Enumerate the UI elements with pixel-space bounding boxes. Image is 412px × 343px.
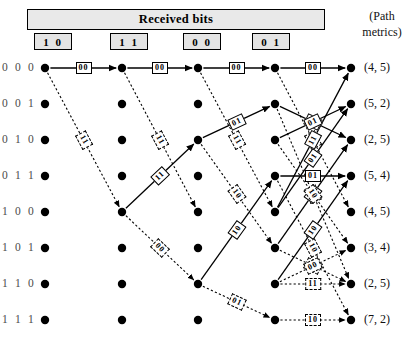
edge-label: 00 <box>305 62 321 74</box>
trellis-node <box>271 208 279 216</box>
trellis-node <box>118 100 126 108</box>
trellis-node <box>194 64 202 72</box>
edge-label: 10 <box>305 314 321 326</box>
trellis-node <box>118 208 126 216</box>
trellis-node <box>271 64 279 72</box>
trellis-node <box>347 64 355 72</box>
trellis-node <box>271 316 279 324</box>
trellis-node <box>271 136 279 144</box>
trellis-node <box>194 208 202 216</box>
trellis-node <box>347 136 355 144</box>
trellis-node <box>194 136 202 144</box>
trellis-node <box>41 316 49 324</box>
trellis-node <box>271 100 279 108</box>
trellis-node <box>347 100 355 108</box>
edge-label: 00 <box>76 62 92 74</box>
trellis-node <box>271 280 279 288</box>
edge-label: 00 <box>152 62 168 74</box>
trellis-node <box>41 64 49 72</box>
trellis-node <box>118 316 126 324</box>
trellis-node <box>118 64 126 72</box>
trellis-node <box>271 172 279 180</box>
trellis-node <box>118 172 126 180</box>
trellis-node <box>118 136 126 144</box>
trellis-node <box>194 100 202 108</box>
edge-label: 11 <box>305 278 321 290</box>
trellis-node <box>347 244 355 252</box>
trellis-node <box>118 244 126 252</box>
trellis-node <box>194 244 202 252</box>
edge-label: 01 <box>305 170 321 182</box>
trellis-node <box>41 244 49 252</box>
trellis-node <box>194 172 202 180</box>
trellis-node <box>347 172 355 180</box>
trellis-svg <box>0 0 412 343</box>
trellis-node <box>347 208 355 216</box>
trellis-node <box>41 208 49 216</box>
trellis-node <box>118 280 126 288</box>
edge-label: 00 <box>229 62 245 74</box>
trellis-node <box>41 172 49 180</box>
trellis-node <box>41 280 49 288</box>
trellis-node <box>41 100 49 108</box>
trellis-node <box>194 316 202 324</box>
trellis-node <box>271 244 279 252</box>
trellis-node <box>41 136 49 144</box>
trellis-node <box>347 280 355 288</box>
trellis-node <box>347 316 355 324</box>
trellis-node <box>194 280 202 288</box>
trellis-diagram: Received bits 1 01 10 00 1 (Path metrics… <box>0 0 412 343</box>
